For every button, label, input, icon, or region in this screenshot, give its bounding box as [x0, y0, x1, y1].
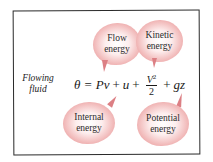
kinetic-energy-pointer [152, 58, 157, 68]
kinetic-energy-term: V2 2 [146, 72, 158, 97]
theta-symbol: θ [74, 77, 80, 93]
internal-energy-label-1: Internal [74, 112, 104, 122]
flow-energy-bubble: Flowenergy [93, 23, 141, 65]
potential-energy-bubble: Potentialenergy [137, 102, 189, 146]
denominator: 2 [149, 86, 154, 97]
flow-energy-pointer [102, 60, 108, 72]
internal-energy-term: u [123, 77, 130, 93]
internal-energy-bubble: Internalenergy [63, 102, 115, 144]
energy-equation: θ = Pv + u + V2 2 + gz [74, 72, 185, 97]
plus-sign: + [163, 77, 170, 93]
exponent: 2 [153, 73, 157, 81]
kinetic-energy-label-2: energy [147, 41, 173, 51]
potential-energy-label-2: energy [150, 124, 176, 134]
fluid-label: fluid [29, 84, 46, 94]
kinetic-energy-label-1: Kinetic [146, 30, 174, 40]
plus-sign: + [132, 77, 139, 93]
flow-energy-label-2: energy [104, 44, 130, 54]
flow-energy-term: Pv [96, 77, 110, 93]
flowing-fluid-label: Flowingfluid [20, 73, 56, 95]
flowing-label: Flowing [22, 73, 54, 83]
kinetic-energy-bubble: Kineticenergy [136, 20, 183, 62]
plus-sign: + [112, 77, 119, 93]
potential-energy-label-1: Potential [146, 113, 180, 123]
equals-sign: = [84, 77, 91, 93]
potential-energy-term: gz [174, 77, 186, 93]
internal-energy-label-2: energy [76, 123, 102, 133]
flow-energy-label-1: Flow [107, 33, 127, 43]
